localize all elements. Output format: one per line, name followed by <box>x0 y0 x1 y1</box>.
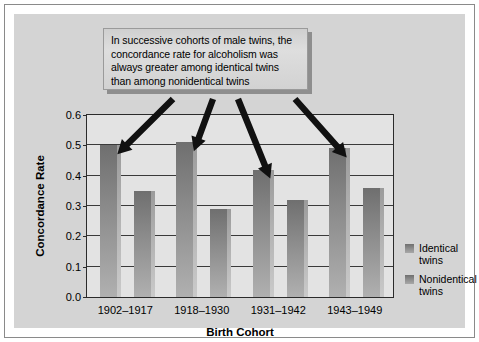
y-tick-label: 0.3 <box>66 200 81 212</box>
legend-label: Identical twins <box>419 242 458 266</box>
bar-side-shadow <box>346 148 350 297</box>
y-tick-label: 0.5 <box>66 139 81 151</box>
bar-face <box>134 191 151 297</box>
plot-area: 0.00.10.20.30.40.50.6 1902–19171918–1930… <box>86 114 394 298</box>
cohort-group <box>317 115 394 297</box>
figure-frame: In successive cohorts of male twins, the… <box>4 4 475 338</box>
bar <box>363 188 380 297</box>
bar-side-shadow <box>304 200 308 297</box>
figure-root: In successive cohorts of male twins, the… <box>0 0 479 342</box>
bar <box>176 142 193 297</box>
callout-box: In successive cohorts of male twins, the… <box>103 28 308 90</box>
cohort-group <box>87 115 164 297</box>
bar <box>100 145 117 297</box>
y-tick-label: 0.4 <box>66 170 81 182</box>
figure-plate: In successive cohorts of male twins, the… <box>14 14 465 328</box>
bar-face <box>210 209 227 297</box>
bar-side-shadow <box>270 170 274 297</box>
x-tick-label: 1931–1942 <box>251 304 306 316</box>
chart-legend: Identical twinsNonidentical twins <box>405 242 479 304</box>
bar-face <box>329 148 346 297</box>
bar-face <box>100 145 117 297</box>
legend-item: Identical twins <box>405 242 479 266</box>
bar-side-shadow <box>193 142 197 297</box>
bar-side-shadow <box>151 191 155 297</box>
legend-swatch <box>405 244 414 253</box>
bar-side-shadow <box>380 188 384 297</box>
x-tick-label: 1943–1949 <box>327 304 382 316</box>
legend-item: Nonidentical twins <box>405 273 479 297</box>
legend-swatch <box>405 275 414 284</box>
bar-face <box>287 200 304 297</box>
y-axis-title: Concordance Rate <box>34 155 46 257</box>
y-tick-label: 0.2 <box>66 230 81 242</box>
y-tick-label: 0.6 <box>66 109 81 121</box>
bar-face <box>363 188 380 297</box>
x-axis-title: Birth Cohort <box>206 326 274 338</box>
bars-area <box>87 115 393 297</box>
x-tick-label: 1902–1917 <box>98 304 153 316</box>
bar-side-shadow <box>117 145 121 297</box>
callout-text: In successive cohorts of male twins, the… <box>111 34 300 88</box>
bar <box>210 209 227 297</box>
bar-side-shadow <box>227 209 231 297</box>
bar <box>287 200 304 297</box>
bar-face <box>176 142 193 297</box>
cohort-group <box>240 115 317 297</box>
cohort-group <box>164 115 241 297</box>
y-tick-label: 0.0 <box>66 291 81 303</box>
y-tick-mark <box>83 297 87 298</box>
bar <box>253 170 270 297</box>
legend-label: Nonidentical twins <box>419 273 477 297</box>
bar <box>329 148 346 297</box>
x-tick-label: 1918–1930 <box>174 304 229 316</box>
y-tick-label: 0.1 <box>66 261 81 273</box>
bar <box>134 191 151 297</box>
bar-face <box>253 170 270 297</box>
